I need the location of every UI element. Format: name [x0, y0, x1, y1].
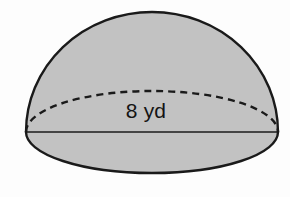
hemisphere-figure-canvas: 8 yd	[0, 0, 290, 197]
diameter-measurement-label: 8 yd	[106, 99, 186, 123]
hemisphere-solid-body	[26, 12, 278, 173]
